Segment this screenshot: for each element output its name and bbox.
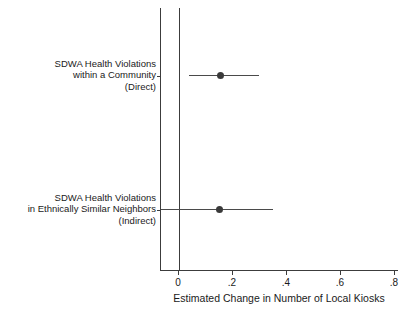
x-axis-title: Estimated Change in Number of Local Kios… [160,292,398,305]
plot-area [160,8,398,271]
coefficient-plot-figure: SDWA Health Violationswithin a Community… [0,0,408,311]
x-axis-tick [394,271,395,275]
y-axis-row-tick [157,210,161,211]
y-axis-category-label: SDWA Health Violationsin Ethnically Simi… [4,192,156,227]
x-axis-tick-label: .2 [220,277,244,289]
x-axis-tick [232,271,233,275]
x-axis-tick-label: .8 [382,277,406,289]
y-axis-category-label-line: (Indirect) [4,215,156,227]
x-axis-tick [340,271,341,275]
y-axis-category-label-line: in Ethnically Similar Neighbors [4,203,156,215]
estimate-row [161,204,273,216]
estimate-row [189,70,259,82]
y-axis-row-tick [157,76,161,77]
confidence-interval-whisker [189,75,259,76]
zero-reference-line [179,8,180,270]
y-axis-category-label-line: SDWA Health Violations [4,192,156,204]
y-axis-category-label-line: SDWA Health Violations [4,58,156,70]
x-axis-tick-label: .4 [274,277,298,289]
y-axis-category-label-line: (Direct) [4,81,156,93]
x-axis-tick [178,271,179,275]
point-estimate-marker [217,72,224,79]
x-axis-tick-label: .6 [328,277,352,289]
y-axis-category-label-line: within a Community [4,69,156,81]
x-axis-tick [286,271,287,275]
y-axis-category-label: SDWA Health Violationswithin a Community… [4,58,156,93]
point-estimate-marker [216,206,223,213]
x-axis-tick-label: 0 [166,277,190,289]
